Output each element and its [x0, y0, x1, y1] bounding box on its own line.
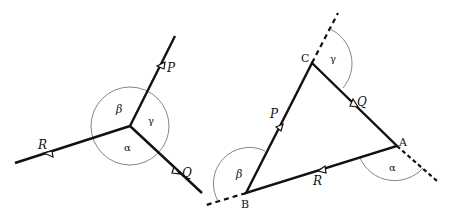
force-line-p	[130, 36, 175, 126]
force-line-q	[130, 126, 202, 193]
force-line-r	[15, 126, 130, 163]
vertex-label-b: B	[241, 198, 249, 211]
angle-label-beta: β	[115, 103, 122, 116]
vertex-label-c: C	[301, 52, 309, 65]
angle-label-alpha: α	[124, 142, 131, 153]
arrow-icon-side-r	[318, 166, 326, 173]
exterior-angle-alpha: α	[389, 162, 396, 173]
side-label-q: Q	[357, 95, 367, 109]
angle-label-gamma: γ	[148, 115, 154, 126]
extension-line-a	[397, 146, 437, 181]
force-label-r: R	[37, 138, 47, 152]
force-label-p: P	[166, 61, 176, 75]
force-label-q: Q	[182, 166, 192, 180]
vertex-label-a: A	[398, 136, 408, 149]
exterior-angle-beta: β	[235, 168, 242, 181]
right-figure-force-triangle: P Q R A B C α β γ	[203, 13, 437, 211]
left-figure-three-forces: P Q R α β γ	[15, 36, 202, 193]
side-label-p: P	[269, 107, 279, 121]
lami-theorem-diagram: P Q R α β γ P Q R A B C α β γ	[0, 0, 451, 219]
extension-line-b	[203, 193, 246, 206]
exterior-angle-gamma: γ	[330, 53, 336, 64]
side-label-r: R	[312, 174, 322, 188]
